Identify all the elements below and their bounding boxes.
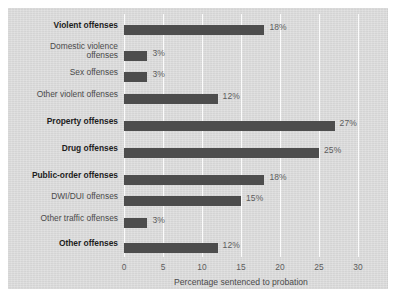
bar-row: 27%Property offenses [124,115,358,137]
chart-figure: 18%Violent offenses3%Domestic violence o… [0,0,396,303]
bar-row: 25%Drug offenses [124,142,358,164]
bar-row: 3%Other traffic offenses [124,212,358,234]
bar-value-label: 12% [223,240,240,250]
category-label: Other offenses [4,239,118,249]
x-tick-label-25: 25 [304,262,334,272]
bar-value-label: 3% [152,48,165,58]
category-label: DWI/DUI offenses [4,192,118,202]
category-label: Drug offenses [4,144,118,154]
x-tick-label-5: 5 [148,262,178,272]
bar [124,218,147,228]
category-label: Sex offenses [4,68,118,78]
bar [124,175,264,185]
bar-row: 12%Other violent offenses [124,88,358,110]
category-label: Violent offenses [4,21,118,31]
category-label: Other traffic offenses [4,214,118,224]
bar-value-label: 27% [340,118,357,128]
bar [124,243,218,253]
category-label: Property offenses [4,117,118,127]
category-label: Other violent offenses [4,90,118,100]
bar-value-label: 12% [223,91,240,101]
x-tick-label-15: 15 [226,262,256,272]
category-label-wrap: Public-order offenses [4,171,118,181]
category-label-wrap: Other violent offenses [4,90,118,100]
category-label: Domestic violence offenses [4,42,118,61]
category-label-wrap: Violent offenses [4,21,118,31]
category-label-wrap: Other offenses [4,239,118,249]
category-label-wrap: DWI/DUI offenses [4,192,118,202]
bar-row: 12%Other offenses [124,237,358,259]
bar-row: 18%Violent offenses [124,19,358,41]
x-tick-label-0: 0 [109,262,139,272]
bar [124,121,335,131]
bar-value-label: 18% [269,22,286,32]
bar-value-label: 25% [324,145,341,155]
bar [124,72,147,82]
bar-row: 3%Domestic violence offenses [124,45,358,67]
bar [124,148,319,158]
bar-value-label: 18% [269,172,286,182]
category-label-wrap: Property offenses [4,117,118,127]
bar [124,94,218,104]
x-tick-label-30: 30 [343,262,373,272]
x-axis-title: Percentage sentenced to probation [124,277,358,287]
bar-row: 15%DWI/DUI offenses [124,190,358,212]
category-label-wrap: Drug offenses [4,144,118,154]
bar-row: 3%Sex offenses [124,66,358,88]
bar-value-label: 3% [152,69,165,79]
category-label-wrap: Domestic violence offenses [4,42,118,61]
bar-value-label: 3% [152,215,165,225]
bar [124,51,147,61]
category-label-wrap: Sex offenses [4,68,118,78]
x-tick-label-10: 10 [187,262,217,272]
bar [124,196,241,206]
gridline-30 [358,14,359,257]
x-tick-label-20: 20 [265,262,295,272]
bar-row: 18%Public-order offenses [124,169,358,191]
plot-area: 18%Violent offenses3%Domestic violence o… [124,14,358,257]
bar-value-label: 15% [246,193,263,203]
category-label: Public-order offenses [4,171,118,181]
category-label-wrap: Other traffic offenses [4,214,118,224]
bar [124,25,264,35]
